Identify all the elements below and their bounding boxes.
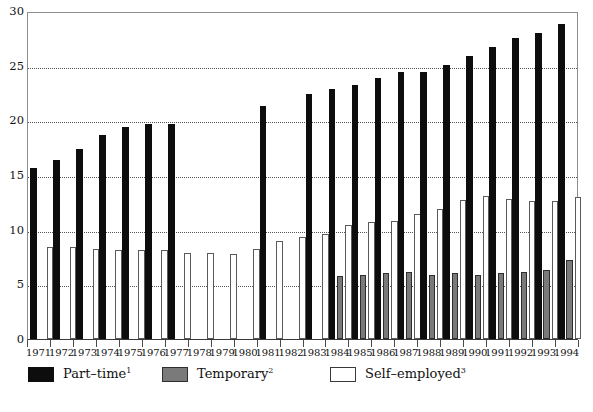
- x-axis-tick: [440, 340, 441, 347]
- chart-root: 051015202530 197119721973197419751976197…: [0, 0, 593, 412]
- bar-group: [441, 13, 464, 339]
- bar-group: [258, 13, 281, 339]
- y-axis-tick-label: 30: [9, 6, 24, 18]
- bar-pt: [489, 47, 496, 339]
- legend-item-temporary[interactable]: Temporary2: [162, 362, 273, 386]
- x-axis-tick-label: 1974: [95, 347, 120, 358]
- x-axis-tick-label: 1984: [324, 347, 349, 358]
- bar-se: [207, 253, 214, 339]
- bar-group: [51, 13, 74, 339]
- x-axis-tick-label: 1990: [462, 347, 487, 358]
- x-axis-tick-label: 1985: [347, 347, 372, 358]
- x-axis-tick: [325, 340, 326, 347]
- x-axis-tick-label: 1972: [49, 347, 74, 358]
- bar-pt: [122, 127, 129, 339]
- bar-tmp: [475, 275, 482, 340]
- x-axis-tick: [27, 340, 28, 347]
- x-axis-tick: [394, 340, 395, 347]
- x-axis-tick: [257, 340, 258, 347]
- black-filled-swatch: [28, 367, 54, 382]
- bar-pt: [558, 24, 565, 339]
- x-axis-tick: [165, 340, 166, 347]
- x-axis-tick: [73, 340, 74, 347]
- x-axis-labels: 1971197219731974197519761977197819791980…: [27, 340, 578, 360]
- legend-item-self-employed[interactable]: Self–employed3: [330, 362, 466, 386]
- bar-pt: [30, 168, 37, 339]
- y-axis-labels: 051015202530: [0, 0, 24, 360]
- bar-pt: [352, 85, 359, 339]
- bar-tmp: [566, 260, 573, 339]
- x-axis-tick-label: 1982: [278, 347, 303, 358]
- x-axis-tick: [486, 340, 487, 347]
- bar-pt: [398, 72, 405, 339]
- bar-group: [304, 13, 327, 339]
- x-axis-tick-label: 1983: [301, 347, 326, 358]
- legend-item-part-time[interactable]: Part–time1: [28, 362, 131, 386]
- x-axis-tick-label: 1971: [26, 347, 51, 358]
- x-axis-tick-label: 1994: [554, 347, 579, 358]
- bar-pt: [53, 160, 60, 339]
- x-axis-tick-label: 1977: [164, 347, 189, 358]
- chart-legend: Part–time1Temporary2Self–employed3: [0, 362, 593, 396]
- bar-series-container: [28, 13, 577, 339]
- white-outlined-swatch: [330, 367, 356, 382]
- plot-area-wrapper: 051015202530 197119721973197419751976197…: [0, 0, 593, 360]
- legend-footnote-marker: 1: [126, 366, 131, 375]
- x-axis-tick-label: 1987: [393, 347, 418, 358]
- bar-group: [349, 13, 372, 339]
- x-axis-tick-label: 1973: [72, 347, 97, 358]
- legend-label-text: Part–time: [63, 367, 126, 382]
- bar-pt: [420, 72, 427, 339]
- x-axis-tick: [142, 340, 143, 347]
- bar-group: [533, 13, 556, 339]
- bar-group: [143, 13, 166, 339]
- bar-pt: [535, 33, 542, 339]
- x-axis-tick-label: 1980: [233, 347, 258, 358]
- x-axis-tick: [280, 340, 281, 347]
- bar-pt: [145, 124, 152, 339]
- bar-pt: [260, 106, 267, 339]
- x-axis-tick: [96, 340, 97, 347]
- bar-tmp: [406, 272, 413, 339]
- x-axis-tick-label: 1986: [370, 347, 395, 358]
- bar-se: [230, 254, 237, 339]
- x-axis-tick: [555, 340, 556, 347]
- bar-pt: [375, 78, 382, 339]
- bar-se: [184, 253, 191, 339]
- x-axis-tick: [417, 340, 418, 347]
- bar-group: [74, 13, 97, 339]
- bar-group: [326, 13, 349, 339]
- legend-footnote-marker: 3: [461, 366, 466, 375]
- legend-footnote-marker: 2: [268, 366, 273, 375]
- x-axis-tick-label: 1978: [187, 347, 212, 358]
- x-axis-tick: [463, 340, 464, 347]
- bar-group: [372, 13, 395, 339]
- x-axis-tick-label: 1988: [416, 347, 441, 358]
- legend-label: Self–employed3: [365, 366, 466, 381]
- bar-tmp: [498, 273, 505, 339]
- bar-se: [276, 241, 283, 339]
- bar-pt: [76, 149, 83, 339]
- x-axis-tick: [509, 340, 510, 347]
- bar-group: [510, 13, 533, 339]
- bar-group: [28, 13, 51, 339]
- gray-filled-swatch: [162, 367, 188, 382]
- x-axis-tick-label: 1993: [531, 347, 556, 358]
- bar-group: [418, 13, 441, 339]
- legend-label: Part–time1: [63, 366, 131, 381]
- bar-tmp: [383, 273, 390, 339]
- x-axis-tick: [532, 340, 533, 347]
- bar-tmp: [337, 276, 344, 339]
- legend-label-text: Temporary: [197, 367, 268, 382]
- y-axis-tick-label: 5: [17, 280, 24, 292]
- x-axis-tick-label: 1979: [210, 347, 235, 358]
- bar-group: [189, 13, 212, 339]
- bar-se: [575, 197, 582, 339]
- bar-tmp: [543, 270, 550, 339]
- bar-group: [281, 13, 304, 339]
- bar-group: [120, 13, 143, 339]
- x-axis-tick: [50, 340, 51, 347]
- x-axis-tick: [234, 340, 235, 347]
- x-axis-tick: [119, 340, 120, 347]
- bar-pt: [168, 124, 175, 339]
